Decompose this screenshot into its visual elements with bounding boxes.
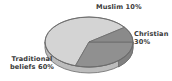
pie-label-traditional: Traditional beliefs 60% bbox=[3, 55, 61, 72]
pie-label-traditional-value: beliefs 60% bbox=[3, 63, 61, 71]
pie-chart-figure: Muslim 10% Christian 30% Traditional bel… bbox=[0, 0, 172, 81]
pie-label-christian-value: 30% bbox=[134, 38, 168, 46]
pie-label-muslim: Muslim 10% bbox=[96, 3, 142, 11]
pie-label-christian: Christian 30% bbox=[134, 30, 168, 47]
pie-label-traditional-name: Traditional bbox=[3, 55, 61, 63]
pie-label-muslim-text: Muslim 10% bbox=[96, 3, 142, 11]
pie-label-christian-name: Christian bbox=[134, 30, 168, 38]
